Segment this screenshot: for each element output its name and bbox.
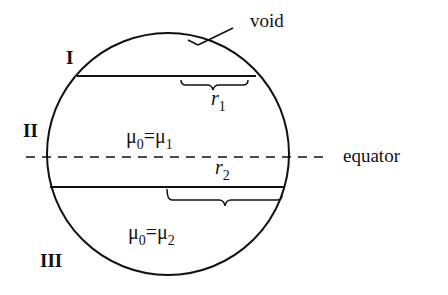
- radius-r2-label: r2: [215, 157, 230, 177]
- equator-label: equator: [343, 146, 400, 165]
- brace-r2: [167, 189, 282, 206]
- region-I-label: I: [66, 48, 73, 67]
- region-III-label: III: [40, 251, 62, 270]
- equation-lower: μ0=μ2: [128, 222, 175, 242]
- void-label: void: [250, 11, 284, 30]
- region-II-label: II: [23, 121, 38, 140]
- equation-upper: μ0=μ1: [126, 126, 173, 146]
- void-tick: [188, 40, 198, 45]
- radius-r1-label: r1: [211, 88, 226, 108]
